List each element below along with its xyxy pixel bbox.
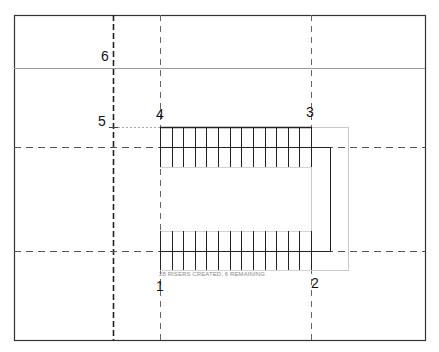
lower-riser-run[interactable] bbox=[161, 231, 312, 270]
point-label-1: 1 bbox=[156, 279, 164, 293]
point-label-2: 2 bbox=[311, 276, 319, 290]
drawing-frame bbox=[15, 16, 426, 341]
point-label-3: 3 bbox=[306, 105, 314, 119]
point-label-5: 5 bbox=[98, 114, 106, 128]
drawing-canvas[interactable] bbox=[0, 0, 439, 352]
grid-label-6: 6 bbox=[101, 49, 109, 63]
riser-status-text: 28 RISERS CREATED, 6 REMAINING bbox=[159, 271, 265, 277]
stair-landing-outline[interactable] bbox=[160, 148, 331, 252]
point-label-4: 4 bbox=[156, 107, 164, 121]
